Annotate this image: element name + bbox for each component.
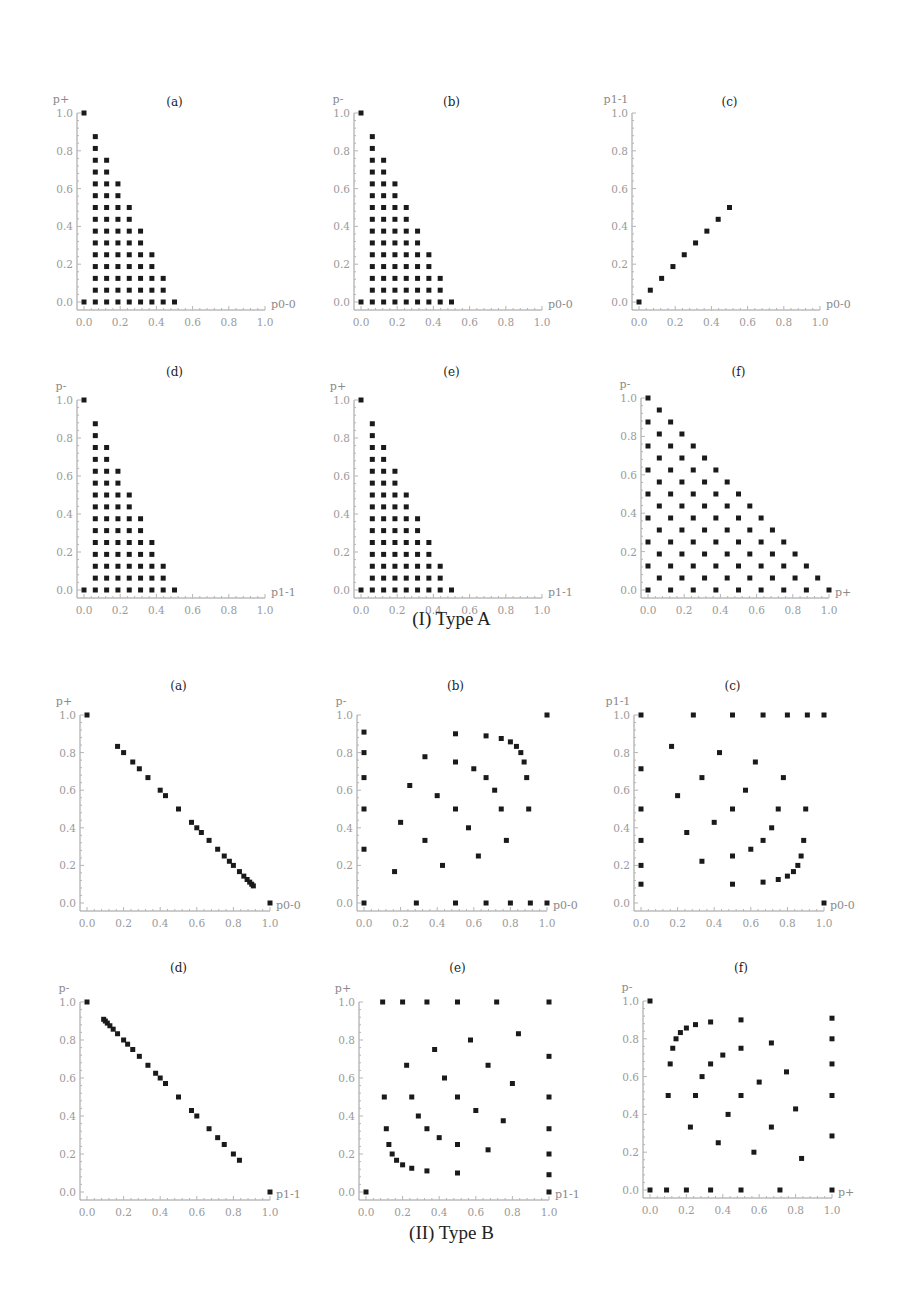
data-point <box>115 252 120 257</box>
scatter-panel: (e)0.00.20.40.60.81.00.00.20.40.60.81.0p… <box>335 961 580 1218</box>
data-point <box>207 1126 212 1131</box>
data-point <box>404 528 409 533</box>
data-point <box>415 552 420 557</box>
data-point <box>115 469 120 474</box>
data-point <box>415 540 420 545</box>
y-tick-label: 0.2 <box>333 546 350 558</box>
x-tick-label: 0.8 <box>775 316 792 328</box>
data-point <box>691 713 696 718</box>
data-point <box>392 552 397 557</box>
y-tick-label: 1.0 <box>611 107 628 119</box>
data-point <box>115 264 120 269</box>
data-point <box>390 1152 395 1157</box>
data-point <box>189 820 194 825</box>
data-point <box>476 854 481 859</box>
data-point <box>545 901 550 906</box>
data-point <box>484 901 489 906</box>
x-tick-label: 0.6 <box>461 316 478 328</box>
y-tick-label: 1.0 <box>338 996 355 1008</box>
data-point <box>93 493 98 498</box>
data-point <box>370 564 375 569</box>
data-point <box>747 576 752 581</box>
data-point <box>727 205 732 210</box>
data-point <box>370 421 375 426</box>
data-point <box>104 158 109 163</box>
x-tick-label: 0.0 <box>79 917 96 929</box>
data-point <box>455 1000 460 1005</box>
data-point <box>646 468 651 473</box>
data-point <box>804 564 809 569</box>
x-tick-label: 0.0 <box>76 316 93 328</box>
data-point <box>82 588 87 593</box>
y-tick-label: 0.8 <box>56 432 73 444</box>
x-tick-label: 0.2 <box>667 316 684 328</box>
data-point <box>508 901 513 906</box>
data-point <box>130 760 135 765</box>
axes <box>634 715 824 911</box>
data-point <box>739 1017 744 1022</box>
data-point <box>127 540 132 545</box>
data-point <box>704 229 709 234</box>
panel-title: (d) <box>170 961 187 975</box>
data-point <box>761 713 766 718</box>
data-point <box>514 744 519 749</box>
data-point <box>127 564 132 569</box>
data-point <box>409 1095 414 1100</box>
data-point <box>547 1095 552 1100</box>
data-point <box>268 1190 273 1195</box>
y-tick-label: 0.8 <box>333 432 350 444</box>
y-tick-label: 0.0 <box>333 584 350 596</box>
data-point <box>93 146 98 151</box>
data-point <box>801 838 806 843</box>
data-point <box>104 170 109 175</box>
data-point <box>453 731 458 736</box>
y-tick-label: 0.0 <box>59 897 76 909</box>
y-tick-label: 0.4 <box>333 220 350 232</box>
data-point <box>547 1190 552 1195</box>
x-tick-label: 1.0 <box>816 917 833 929</box>
data-point <box>149 576 154 581</box>
data-point <box>392 493 397 498</box>
x-axis-label: p0-0 <box>276 899 301 912</box>
data-point <box>693 240 698 245</box>
data-point <box>657 456 662 461</box>
data-point <box>528 901 533 906</box>
data-point <box>381 193 386 198</box>
data-point <box>115 481 120 486</box>
data-point <box>510 1081 515 1086</box>
data-point <box>93 276 98 281</box>
data-point <box>426 552 431 557</box>
y-tick-label: 1.0 <box>56 394 73 406</box>
data-point <box>691 540 696 545</box>
data-point <box>153 1071 158 1076</box>
data-point <box>471 766 476 771</box>
data-point <box>138 300 143 305</box>
data-point <box>486 1063 491 1068</box>
data-point <box>769 1125 774 1130</box>
data-point <box>717 750 722 755</box>
data-point <box>127 576 132 581</box>
y-tick-label: 0.2 <box>333 258 350 270</box>
data-point <box>793 1106 798 1111</box>
data-point <box>508 739 513 744</box>
data-point <box>93 158 98 163</box>
data-point <box>93 504 98 509</box>
data-point <box>138 540 143 545</box>
data-point <box>93 433 98 438</box>
y-tick-label: 0.6 <box>56 183 73 195</box>
data-point <box>426 576 431 581</box>
y-axis-label: p- <box>56 380 67 393</box>
x-tick-label: 0.8 <box>220 316 237 328</box>
data-point <box>415 588 420 593</box>
x-axis-label: p0-0 <box>553 899 578 912</box>
data-point <box>716 1140 721 1145</box>
data-point <box>691 444 696 449</box>
data-point <box>127 217 132 222</box>
data-point <box>362 775 367 780</box>
data-point <box>440 863 445 868</box>
data-point <box>93 134 98 139</box>
data-point <box>432 1047 437 1052</box>
x-tick-label: 0.4 <box>429 917 446 929</box>
x-tick-label: 0.6 <box>184 316 201 328</box>
data-point <box>501 1118 506 1123</box>
